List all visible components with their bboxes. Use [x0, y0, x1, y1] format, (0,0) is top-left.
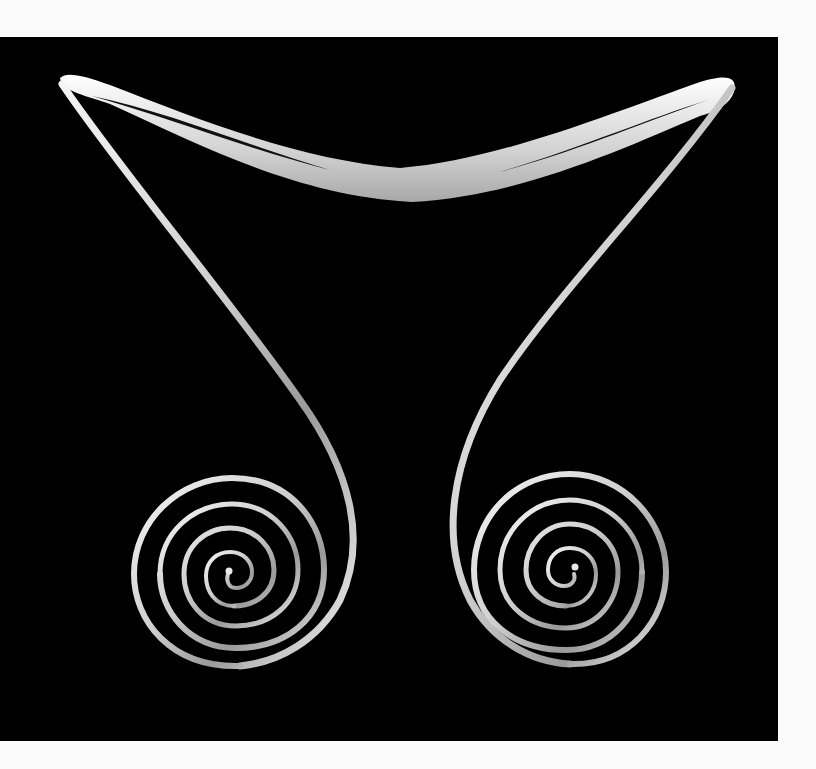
left-spiral	[134, 478, 324, 666]
necklace-illustration	[0, 37, 778, 741]
photograph: Sterling silver neck ring shaped like a …	[0, 37, 778, 741]
collar-band	[60, 75, 735, 202]
